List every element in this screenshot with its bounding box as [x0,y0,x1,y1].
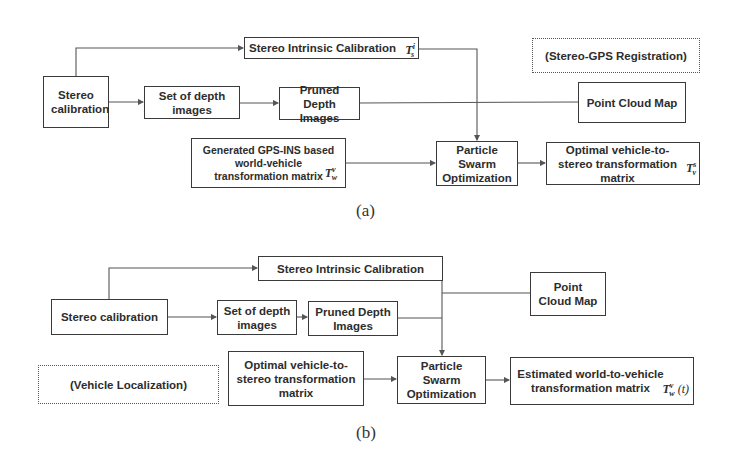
node-label: Optimal vehicle-to-stereo transformation… [553,143,683,185]
node-point-cloud-map: Point Cloud Map [578,82,686,123]
node-set-of-depth-images: Set of depth images [217,300,297,335]
node-label: Stereo Intrinsic Calibration [249,41,396,55]
node-label: Stereo calibration [61,310,158,324]
node-point-cloud-map: Point Cloud Map [530,272,606,316]
node-optimal-vehicle-to-stereo: Optimal vehicle-to-stereo transformation… [546,142,700,185]
caption-b: (b) [356,423,376,443]
node-label: Generated GPS-INS based world-vehicle tr… [199,144,339,183]
node-label: Particle Swarm Optimization [442,143,512,185]
node-stereo-intrinsic-calibration: Stereo Intrinsic Calibration [258,256,443,281]
node-label: Pruned Depth Images [283,83,356,125]
node-label: Stereo Intrinsic Calibration [277,262,424,276]
world-vehicle-matrix-symbol: Tvw [325,163,337,184]
node-stereo-intrinsic-calibration: Stereo Intrinsic Calibration Tis [244,37,419,59]
node-label: Particle Swarm Optimization [403,359,481,401]
node-stereo-calibration: Stereo calibration [43,76,109,128]
vehicle-stereo-matrix-symbol: Tsv [686,158,696,180]
node-particle-swarm-optimization: Particle Swarm Optimization [436,141,518,186]
node-label: Stereo calibration [51,88,101,116]
node-gps-ins-matrix: Generated GPS-INS based world-vehicle tr… [191,138,346,188]
world-vehicle-matrix-symbol: Tvw (t) [662,379,689,401]
node-pruned-depth-images: Pruned Depth Images [279,87,360,120]
node-set-of-depth-images: Set of depth images [144,86,240,119]
node-particle-swarm-optimization: Particle Swarm Optimization [397,356,486,404]
node-label: Optimal vehicle-to-stereo transformation… [232,358,360,400]
mode-label-vehicle-localization: (Vehicle Localization) [38,365,219,404]
node-pruned-depth-images: Pruned Depth Images [308,301,398,336]
intrinsic-matrix-symbol: Tis [405,40,414,62]
node-stereo-calibration: Stereo calibration [51,299,168,335]
node-label: Pruned Depth Images [313,305,393,333]
node-label: Estimated world-to-vehicle transformatio… [516,367,666,395]
node-label: Point Cloud Map [538,280,598,308]
mode-label-stereo-gps-registration: (Stereo-GPS Registration) [532,38,700,73]
node-label: Set of depth images [152,89,232,117]
caption-a: (a) [356,201,375,221]
node-estimated-world-to-vehicle: Estimated world-to-vehicle transformatio… [510,357,694,405]
node-label: Set of depth images [221,304,293,332]
node-label: Point Cloud Map [587,96,678,110]
node-optimal-vehicle-to-stereo: Optimal vehicle-to-stereo transformation… [228,351,364,406]
